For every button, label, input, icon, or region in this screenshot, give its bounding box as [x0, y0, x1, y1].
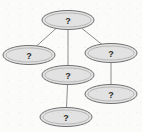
node-root[interactable]: ?	[42, 11, 94, 30]
edge-root-to-right	[82, 29, 102, 45]
node-lower-right-label: ?	[108, 90, 114, 100]
node-root-label: ?	[65, 16, 71, 26]
edge-center-to-bottom	[67, 85, 68, 109]
node-left-label: ?	[26, 51, 32, 61]
node-center[interactable]: ?	[42, 66, 94, 85]
node-right[interactable]: ?	[85, 44, 137, 63]
node-bottom[interactable]: ?	[40, 108, 92, 127]
node-right-label: ?	[108, 49, 114, 59]
diagram-svg: ? ? ? ? ? ?	[0, 0, 142, 132]
node-left[interactable]: ?	[3, 46, 55, 65]
node-bottom-label: ?	[63, 113, 69, 123]
node-lower-right[interactable]: ?	[85, 85, 137, 104]
diagram-canvas: ? ? ? ? ? ?	[0, 0, 142, 132]
edge-root-to-left	[36, 29, 56, 47]
node-center-label: ?	[65, 71, 71, 81]
